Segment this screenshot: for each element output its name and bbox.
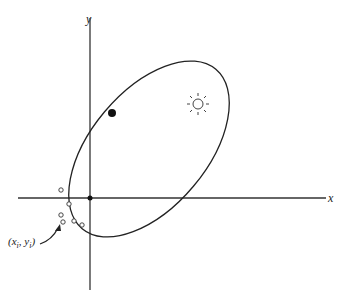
sun-icon <box>187 93 209 115</box>
y-axis-label: y <box>85 12 92 26</box>
observation-point <box>61 220 65 224</box>
observation-points <box>59 188 84 227</box>
orbit-diagram: y x (xi, yi) <box>0 0 345 298</box>
origin-dot <box>88 196 93 201</box>
orbit-ellipse <box>38 32 261 266</box>
observation-point <box>80 223 84 227</box>
planet-dot <box>108 109 116 117</box>
observation-point <box>72 219 76 223</box>
observation-point <box>59 188 63 192</box>
x-axis-label: x <box>327 191 334 205</box>
arrowhead-icon <box>55 224 61 231</box>
observation-point <box>67 202 71 206</box>
annotation-arrow <box>40 228 58 244</box>
observation-point <box>59 213 63 217</box>
data-point-label: (xi, yi) <box>8 235 35 250</box>
